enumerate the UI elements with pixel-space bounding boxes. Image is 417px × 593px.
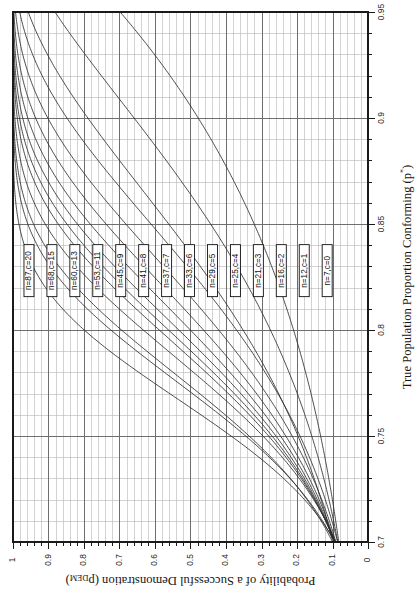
- x-axis-title-text: True Population Proportion Conforming (p…: [399, 165, 414, 390]
- curve-label-text: n=41,c=8: [139, 253, 148, 288]
- curve-label-text: n=37,c=7: [162, 253, 171, 288]
- curve-label-text: n=25,c=4: [231, 253, 240, 288]
- xtick-label: 0.8: [376, 324, 386, 336]
- curve-label-text: n=60,c=13: [70, 251, 79, 290]
- curve-label-text: n=16,c=2: [277, 253, 286, 288]
- curve-label-text: n=45,c=9: [116, 253, 125, 288]
- ytick-label: 0.7: [114, 554, 124, 566]
- xtick-label: 0.85: [376, 216, 386, 233]
- oc-curve-plot: 0.70.750.80.850.90.9500.10.20.30.40.50.6…: [0, 0, 417, 593]
- ytick-label: 1: [7, 557, 17, 562]
- xtick-label: 0.7: [376, 536, 386, 548]
- x-axis-title: True Population Proportion Conforming (p…: [399, 165, 414, 390]
- curve-label-text: n=68,c=15: [47, 251, 56, 290]
- xtick-label: 0.95: [376, 4, 386, 21]
- xtick-label: 0.9: [376, 112, 386, 124]
- ytick-label: 0.8: [78, 554, 88, 566]
- y-axis-title: Probability of a Successful Demonstratio…: [66, 573, 316, 588]
- ytick-label: 0.1: [327, 554, 337, 566]
- curve-label-text: n=29,c=5: [208, 253, 217, 288]
- ytick-label: 0.2: [291, 554, 301, 566]
- ytick-label: 0.9: [43, 554, 53, 566]
- ytick-label: 0.6: [149, 554, 159, 566]
- curve-label-text: n=33,c=6: [185, 253, 194, 288]
- curve-label-text: n=53,c=11: [93, 251, 102, 290]
- curve-label-text: n=87,c=20: [24, 251, 33, 290]
- ytick-label: 0: [362, 557, 372, 562]
- ytick-label: 0.4: [220, 554, 230, 566]
- xtick-label: 0.75: [376, 428, 386, 445]
- ytick-label: 0.3: [256, 554, 266, 566]
- curve-label-text: n=7,c=0: [323, 255, 332, 285]
- curve-label-text: n=12,c=1: [300, 253, 309, 288]
- ytick-label: 0.5: [185, 554, 195, 566]
- y-axis-title-text: Probability of a Successful Demonstratio…: [66, 573, 316, 588]
- chart-figure: 0.70.750.80.850.90.9500.10.20.30.40.50.6…: [0, 0, 417, 593]
- curve-label-text: n=21,c=3: [254, 253, 263, 288]
